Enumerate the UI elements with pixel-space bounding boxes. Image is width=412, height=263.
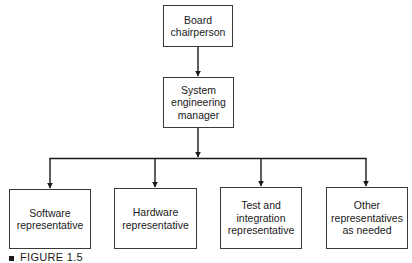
node-label: Test and integration representative <box>228 199 295 237</box>
node-software-representative: Software representative <box>9 189 91 249</box>
node-system-engineering-manager: System engineering manager <box>163 77 234 128</box>
node-label: Software representative <box>17 207 84 232</box>
figure-caption-label: FIGURE 1.5 <box>20 251 83 263</box>
node-label: Hardware representative <box>122 206 189 231</box>
node-label: Board chairperson <box>171 14 226 39</box>
node-other-representatives: Other representatives as needed <box>326 187 408 249</box>
node-hardware-representative: Hardware representative <box>114 188 197 249</box>
figure-caption: FIGURE 1.5 <box>9 251 83 263</box>
node-test-integration-representative: Test and integration representative <box>220 187 302 249</box>
node-label: Other representatives as needed <box>331 199 403 237</box>
square-bullet-icon <box>9 256 14 261</box>
node-board-chairperson: Board chairperson <box>163 5 233 47</box>
node-label: System engineering manager <box>171 84 226 122</box>
